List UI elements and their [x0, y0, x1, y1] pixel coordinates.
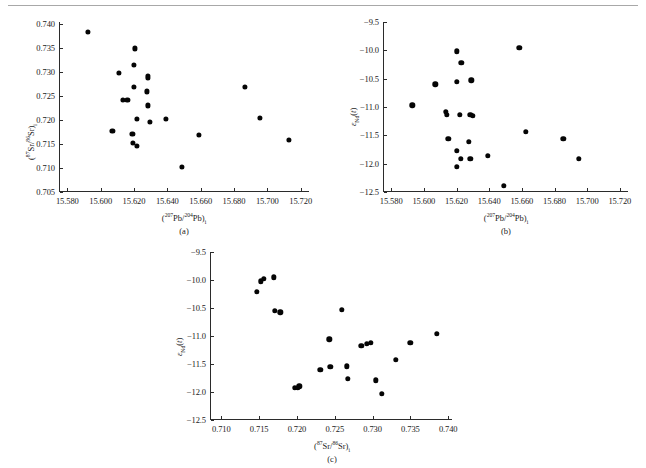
- y-axis-tick: [211, 308, 214, 309]
- y-axis-tick: [60, 72, 63, 73]
- y-axis-tick: [384, 164, 387, 165]
- x-axis-tick-label: 15.600: [89, 196, 112, 206]
- axes-frame: [383, 22, 628, 192]
- y-axis-tick-label: 0.725: [36, 91, 55, 101]
- y-axis-tick: [384, 192, 387, 193]
- x-axis-tick: [489, 188, 490, 191]
- x-axis-tick-label: 15.660: [510, 196, 533, 206]
- x-axis-tick-label: 15.720: [289, 196, 312, 206]
- panel-a-xlabel: (207Pb/204Pb)i: [162, 213, 206, 223]
- y-axis-tick: [60, 168, 63, 169]
- panel-a: 15.58015.60015.62015.64015.66015.68015.7…: [14, 10, 330, 235]
- panel-b-plot-area: 15.58015.60015.62015.64015.66015.68015.7…: [383, 22, 628, 192]
- y-axis-tick-label: −12.0: [360, 159, 379, 169]
- x-axis-tick-label: 15.580: [380, 196, 403, 206]
- y-axis-tick: [211, 392, 214, 393]
- x-axis-tick: [391, 188, 392, 191]
- x-axis-tick: [555, 188, 556, 191]
- top-divider-rule: [8, 5, 638, 6]
- y-axis-tick: [384, 50, 387, 51]
- y-axis-tick: [60, 144, 63, 145]
- x-axis-tick-label: 0.715: [250, 424, 269, 434]
- y-axis-tick-label: −11.5: [360, 130, 379, 140]
- panel-c-xlabel: (87Sr/86Sr)i: [314, 441, 350, 451]
- y-axis-tick: [211, 336, 214, 337]
- y-axis-tick-label: 0.735: [36, 43, 55, 53]
- axes-frame: [59, 22, 309, 192]
- y-axis-tick: [211, 364, 214, 365]
- y-axis-tick: [211, 280, 214, 281]
- y-axis-tick-label: −12.0: [187, 387, 206, 397]
- y-axis-tick-label: 0.710: [36, 163, 55, 173]
- x-axis-tick: [259, 416, 260, 419]
- panel-b-ylabel: εNd(t): [348, 108, 358, 126]
- panel-c: 0.7100.7150.7200.7250.7300.7350.740−12.5…: [160, 240, 480, 465]
- x-axis-tick: [448, 416, 449, 419]
- y-axis-tick-label: 0.740: [36, 19, 55, 29]
- x-axis-tick: [221, 416, 222, 419]
- x-axis-tick: [373, 416, 374, 419]
- x-axis-tick: [620, 188, 621, 191]
- y-axis-tick-label: 0.720: [36, 115, 55, 125]
- panel-a-ylabel: (87Sr/86Sr)i: [26, 124, 36, 160]
- x-axis-tick: [297, 416, 298, 419]
- y-axis-tick: [60, 96, 63, 97]
- y-axis-tick-label: −11.5: [187, 359, 206, 369]
- x-axis-tick-label: 0.730: [363, 424, 382, 434]
- y-axis-tick: [60, 192, 63, 193]
- y-axis-tick-label: 0.730: [36, 67, 55, 77]
- panel-a-plot-area: 15.58015.60015.62015.64015.66015.68015.7…: [59, 22, 309, 192]
- x-axis-tick: [101, 188, 102, 191]
- panel-b: 15.58015.60015.62015.64015.66015.68015.7…: [338, 10, 638, 235]
- y-axis-tick: [60, 48, 63, 49]
- x-axis-tick-label: 15.620: [445, 196, 468, 206]
- y-axis-tick: [60, 24, 63, 25]
- x-axis-tick-label: 15.680: [543, 196, 566, 206]
- y-axis-tick: [384, 79, 387, 80]
- x-axis-tick-label: 0.725: [325, 424, 344, 434]
- panel-b-caption: (b): [501, 226, 511, 236]
- y-axis-tick: [384, 107, 387, 108]
- y-axis-tick-label: −10.0: [360, 45, 379, 55]
- x-axis-tick: [335, 416, 336, 419]
- x-axis-tick-label: 0.720: [288, 424, 307, 434]
- panel-c-plot-area: 0.7100.7150.7200.7250.7300.7350.740−12.5…: [210, 252, 452, 420]
- y-axis-tick-label: −10.5: [360, 74, 379, 84]
- y-axis-tick: [211, 252, 214, 253]
- x-axis-tick: [134, 188, 135, 191]
- x-axis-tick-label: 15.640: [156, 196, 179, 206]
- x-axis-tick: [201, 188, 202, 191]
- axes-frame: [210, 252, 452, 420]
- x-axis-tick-label: 15.620: [123, 196, 146, 206]
- panel-c-ylabel: εNd(t): [174, 338, 184, 356]
- panel-a-caption: (a): [179, 226, 188, 236]
- x-axis-tick: [410, 416, 411, 419]
- x-axis-tick-label: 15.640: [478, 196, 501, 206]
- y-axis-tick-label: −9.5: [191, 247, 206, 257]
- y-axis-tick: [384, 22, 387, 23]
- x-axis-tick-label: 15.600: [412, 196, 435, 206]
- y-axis-tick-label: −10.0: [187, 275, 206, 285]
- x-axis-tick-label: 0.710: [212, 424, 231, 434]
- x-axis-tick-label: 15.700: [576, 196, 599, 206]
- x-axis-tick-label: 0.740: [439, 424, 458, 434]
- x-axis-tick-label: 15.700: [256, 196, 279, 206]
- x-axis-tick-label: 15.580: [56, 196, 79, 206]
- y-axis-tick-label: −10.5: [187, 303, 206, 313]
- x-axis-tick-label: 0.735: [401, 424, 420, 434]
- x-axis-tick: [522, 188, 523, 191]
- y-axis-tick-label: −11.0: [360, 102, 379, 112]
- y-axis-tick: [211, 420, 214, 421]
- x-axis-tick: [167, 188, 168, 191]
- y-axis-tick-label: 0.715: [36, 139, 55, 149]
- x-axis-tick-label: 15.720: [608, 196, 631, 206]
- y-axis-tick: [384, 135, 387, 136]
- x-axis-tick: [587, 188, 588, 191]
- y-axis-tick-label: −12.5: [187, 415, 206, 425]
- x-axis-tick: [424, 188, 425, 191]
- x-axis-tick-label: 15.680: [223, 196, 246, 206]
- y-axis-tick-label: −12.5: [360, 187, 379, 197]
- panel-b-xlabel: (207Pb/204Pb)i: [484, 213, 528, 223]
- x-axis-tick: [301, 188, 302, 191]
- x-axis-tick-label: 15.660: [189, 196, 212, 206]
